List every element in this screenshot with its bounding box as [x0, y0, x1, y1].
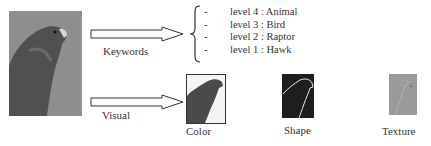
visual-label: Visual: [102, 109, 130, 121]
texture-feature-image: [389, 74, 417, 115]
texture-label: Texture: [382, 125, 415, 137]
level-text: level 1 : Hawk: [230, 44, 292, 57]
level-text: level 3 : Bird: [230, 19, 285, 32]
hawk-photo: [9, 11, 82, 116]
color-segmentation-icon: [186, 74, 226, 124]
list-item: - level 4 : Animal: [204, 6, 297, 19]
list-item: - level 1 : Hawk: [204, 44, 297, 57]
level-text: level 4 : Animal: [230, 6, 297, 19]
list-item: - level 3 : Bird: [204, 19, 297, 32]
shape-feature-image: [282, 74, 314, 118]
keywords-label: Keywords: [103, 45, 148, 57]
shape-label: Shape: [284, 124, 311, 136]
bullet: -: [204, 6, 230, 19]
arrow-right-icon: [90, 94, 185, 110]
curly-brace: [188, 5, 202, 67]
color-label: Color: [186, 125, 211, 137]
list-item: - level 2 : Raptor: [204, 31, 297, 44]
keyword-levels-list: - level 4 : Animal - level 3 : Bird - le…: [204, 6, 297, 56]
shape-contour-icon: [282, 74, 314, 118]
color-feature-image: [186, 74, 226, 124]
texture-map-icon: [389, 74, 417, 115]
level-text: level 2 : Raptor: [230, 31, 295, 44]
arrow-right-icon: [90, 26, 185, 42]
bullet: -: [204, 44, 230, 57]
curly-brace-icon: [188, 5, 202, 63]
bullet: -: [204, 31, 230, 44]
bullet: -: [204, 19, 230, 32]
keywords-arrow: [90, 26, 185, 46]
hawk-photo-icon: [9, 11, 82, 116]
